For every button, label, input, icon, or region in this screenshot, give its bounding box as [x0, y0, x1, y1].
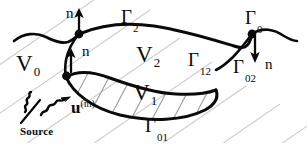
label-v2: V2 [136, 43, 159, 66]
diagram-figure: V0 V2 V1 Γ2 Γ0 Γ12 Γ02 Γ01 n n n u(in) S… [0, 0, 307, 150]
label-source: Source [20, 126, 53, 137]
label-incident-field: u(in) [71, 99, 95, 116]
gamma-2-cavity-top-curve [79, 24, 252, 47]
label-v1: V1 [133, 81, 156, 104]
label-v0: V0 [16, 52, 39, 75]
label-normal-right: n [265, 57, 273, 72]
label-normal-top: n [66, 6, 74, 21]
label-gamma-02: Γ02 [233, 57, 255, 80]
junction-dot-mid-left [62, 72, 71, 81]
label-gamma-12: Γ12 [188, 50, 210, 73]
label-normal-mid: n [82, 44, 90, 59]
label-gamma-0: Γ0 [245, 8, 261, 31]
label-gamma-01: Γ01 [145, 116, 167, 139]
gamma-0-outer-surface-curve [14, 34, 79, 43]
label-gamma-2: Γ2 [121, 7, 137, 30]
